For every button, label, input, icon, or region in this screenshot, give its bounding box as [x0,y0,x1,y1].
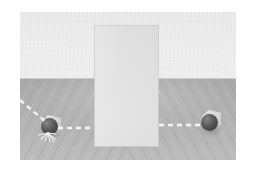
occluder-panel [95,26,158,146]
right-ball [201,114,218,131]
rendered-scene [20,12,236,160]
occluder-sheen [95,26,158,146]
left-ball [41,118,58,135]
image-canvas [0,0,253,176]
